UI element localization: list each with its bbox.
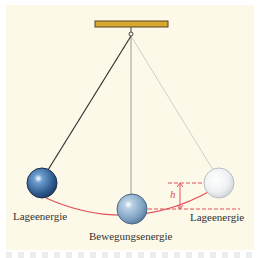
- label-center: Bewegungsenergie: [89, 230, 173, 242]
- string-right: [131, 36, 218, 178]
- cropped-caption: [6, 252, 256, 258]
- string-left: [43, 36, 131, 178]
- ball-left: [27, 168, 57, 198]
- ball-right: [204, 168, 234, 198]
- pivot-ring: [129, 32, 133, 36]
- label-left: Lageenergie: [13, 210, 67, 222]
- height-symbol: h: [170, 188, 176, 200]
- suspension-beam: [95, 21, 168, 27]
- ball-center: [117, 194, 147, 224]
- label-right: Lageenergie: [190, 211, 244, 223]
